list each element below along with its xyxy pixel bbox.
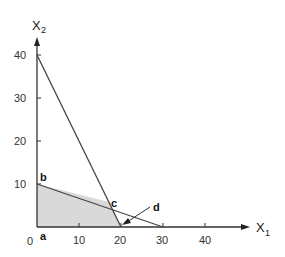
x-axis-label: X	[256, 220, 265, 235]
y-tick-label-40: 40	[14, 49, 26, 61]
x-tick-label-20: 20	[114, 234, 126, 246]
x-tick-label-10: 10	[73, 234, 85, 246]
pointer-d	[127, 207, 150, 222]
pointer-d-arrow-icon	[122, 218, 131, 225]
origin-label: 0	[27, 235, 33, 247]
x-axis-subscript: 1	[265, 228, 270, 238]
y-tick-label-30: 30	[14, 92, 26, 104]
point-label-d: d	[153, 201, 160, 213]
y-axis-arrow-icon	[34, 37, 40, 46]
x-tick-label-30: 30	[156, 234, 168, 246]
y-axis-subscript: 2	[41, 25, 46, 35]
point-label-b: b	[40, 171, 47, 183]
feasible-region	[37, 184, 121, 227]
x-tick-label-40: 40	[199, 234, 211, 246]
x-axis-arrow-icon	[241, 224, 250, 230]
y-axis-label: X	[32, 18, 41, 33]
y-tick-label-10: 10	[14, 178, 26, 190]
point-label-a: a	[40, 230, 47, 242]
y-tick-label-20: 20	[14, 135, 26, 147]
lp-diagram: 10 20 30 40 10 20 30 40 0 X 2 X 1 a b c …	[0, 0, 285, 257]
point-label-c: c	[111, 197, 117, 209]
